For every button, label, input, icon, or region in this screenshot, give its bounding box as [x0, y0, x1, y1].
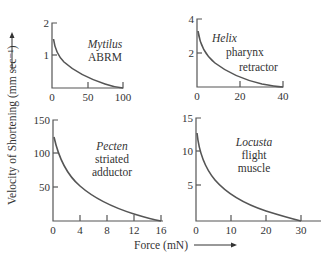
arrow-right-icon	[194, 243, 237, 248]
svg-text:2: 2	[189, 47, 195, 59]
svg-text:100: 100	[34, 147, 51, 159]
svg-text:4: 4	[189, 13, 195, 25]
svg-text:40: 40	[278, 90, 290, 102]
y-axis-label: Velocity of Shortening (mm sec⁻¹)	[6, 32, 19, 205]
svg-text:20: 20	[235, 90, 247, 102]
svg-text:Helix: Helix	[211, 32, 238, 44]
svg-text:pharynx: pharynx	[226, 46, 264, 59]
svg-text:retractor: retractor	[239, 61, 278, 73]
panel-helix: 4 2 0 20 40 Helix pharynx retractor	[189, 13, 290, 102]
svg-text:Pecten: Pecten	[95, 140, 128, 152]
svg-text:0: 0	[194, 90, 200, 102]
svg-text:adductor: adductor	[92, 166, 132, 178]
svg-text:30: 30	[296, 224, 308, 236]
svg-text:Force (mN): Force (mN)	[134, 239, 188, 252]
svg-text:4: 4	[77, 224, 83, 236]
svg-text:0: 0	[193, 224, 199, 236]
svg-text:1: 1	[44, 49, 50, 61]
svg-text:ABRM: ABRM	[88, 51, 122, 63]
svg-text:15: 15	[182, 112, 194, 124]
svg-text:striated: striated	[95, 153, 129, 165]
svg-text:2: 2	[44, 17, 50, 29]
svg-text:50: 50	[83, 91, 95, 103]
svg-text:muscle: muscle	[238, 162, 271, 174]
svg-text:0: 0	[50, 224, 56, 236]
svg-text:12: 12	[129, 224, 140, 236]
figure-canvas: Velocity of Shortening (mm sec⁻¹) 2 1 0 …	[0, 0, 331, 261]
svg-text:Locusta: Locusta	[235, 136, 273, 148]
svg-text:8: 8	[104, 224, 110, 236]
panel-mytilus: 2 1 0 50 100 Mytilus ABRM	[44, 17, 132, 103]
svg-text:150: 150	[34, 114, 51, 126]
svg-text:flight: flight	[242, 149, 268, 162]
svg-text:20: 20	[261, 224, 273, 236]
svg-text:16: 16	[156, 224, 168, 236]
svg-text:10: 10	[182, 145, 194, 157]
svg-text:100: 100	[115, 91, 132, 103]
svg-text:Mytilus: Mytilus	[87, 38, 123, 51]
panel-locusta: 15 10 5 0 10 20 30 Locusta flight muscle	[182, 112, 321, 236]
x-axis-label: Force (mN)	[134, 239, 237, 252]
svg-text:10: 10	[226, 224, 238, 236]
svg-text:5: 5	[188, 179, 194, 191]
svg-text:50: 50	[39, 181, 51, 193]
panel-pecten: 150 100 50 0 4 8 12 16 Pecten striated a…	[34, 114, 168, 236]
svg-text:0: 0	[49, 91, 55, 103]
curve-helix	[198, 31, 283, 87]
